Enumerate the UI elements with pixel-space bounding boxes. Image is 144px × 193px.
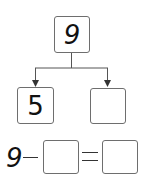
arrow-down-left-icon bbox=[32, 80, 39, 87]
subtrahend-answer-box[interactable] bbox=[43, 140, 79, 174]
equals-sign bbox=[82, 152, 98, 162]
equation-minuend: 9 bbox=[6, 145, 23, 171]
result-answer-box[interactable] bbox=[102, 140, 138, 174]
whole-box: 9 bbox=[54, 16, 90, 53]
minus-sign bbox=[23, 157, 38, 158]
whole-value: 9 bbox=[64, 22, 81, 48]
arrow-down-right-icon bbox=[104, 80, 111, 87]
part-left-box: 5 bbox=[17, 87, 54, 124]
part-left-value: 5 bbox=[27, 93, 44, 119]
part-right-answer-box[interactable] bbox=[90, 88, 126, 124]
